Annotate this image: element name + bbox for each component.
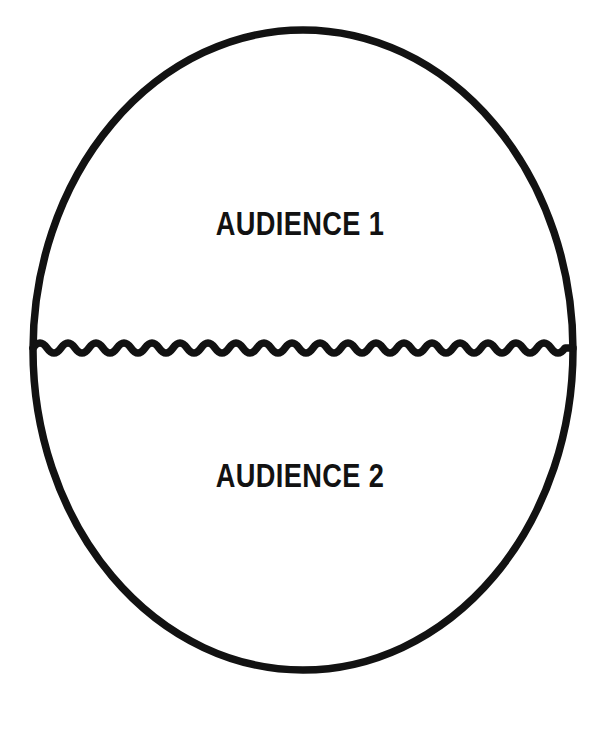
diagram-canvas: AUDIENCE 1 AUDIENCE 2: [0, 0, 600, 753]
diagram-background: [0, 0, 600, 753]
region-label-audience-1: AUDIENCE 1: [60, 206, 540, 240]
audience-split-diagram: [0, 0, 600, 753]
region-label-audience-2: AUDIENCE 2: [60, 458, 540, 492]
